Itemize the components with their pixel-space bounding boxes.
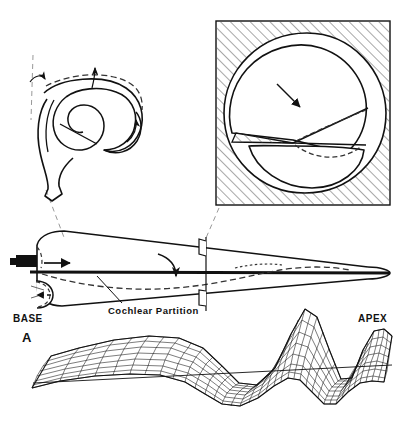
cutting-plane-flag-bottom xyxy=(199,290,206,306)
uncoil-arrow-top xyxy=(92,68,95,88)
inset-leader-dashed-line xyxy=(206,208,219,238)
uncoiled-cochlea-model xyxy=(10,231,390,311)
traveling-wave-mesh-surface xyxy=(32,309,392,406)
coiled-cochlea-sketch xyxy=(30,55,142,240)
displaced-partition-dashed-line xyxy=(42,267,350,289)
cochlear-partition-bar xyxy=(30,272,390,273)
label-cochlear-partition: Cochlear Partition xyxy=(108,305,199,316)
stapes-footplate xyxy=(16,255,37,267)
cochlea-basal-hook xyxy=(38,99,73,201)
cochlea-figure xyxy=(0,0,405,428)
stapes-crus xyxy=(10,258,18,265)
coil-axis-dashed-line xyxy=(31,55,33,120)
cutting-plane-flag-top xyxy=(199,239,206,256)
label-base: BASE xyxy=(13,313,43,324)
displaced-partition-dotted-crest xyxy=(235,264,282,268)
partition-label-leader xyxy=(97,276,122,303)
cochlea-inner-turn xyxy=(53,97,104,150)
cochlea-modiolus-line xyxy=(60,124,97,144)
cochlear-cross-section-inset xyxy=(206,21,390,238)
label-apex: APEX xyxy=(358,313,387,324)
panel-label-a: A xyxy=(22,330,32,345)
